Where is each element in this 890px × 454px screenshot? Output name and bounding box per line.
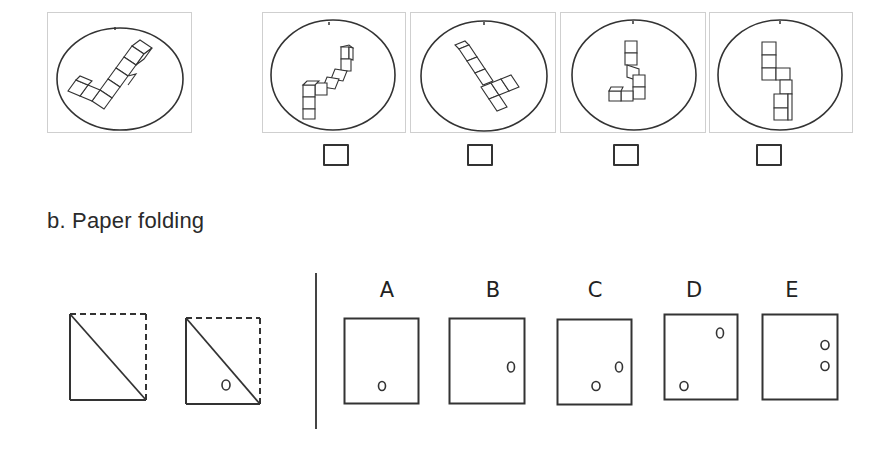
cube-figure-option-3 [561, 13, 707, 134]
option-e-square[interactable] [761, 313, 841, 403]
cube-figure-option-1 [263, 13, 407, 134]
cube-figure-reference [48, 13, 193, 134]
cube-figure-option-4 [710, 13, 854, 134]
cube-figure-option-2 [411, 13, 557, 134]
option-3-checkbox[interactable] [613, 144, 639, 166]
section-title-paper-folding: b. Paper folding [47, 208, 204, 234]
reference-figure-panel [47, 12, 192, 133]
option-2-checkbox[interactable] [467, 144, 493, 166]
option-label-e: E [777, 278, 807, 302]
punched-hole [222, 380, 230, 390]
option-label-c: C [580, 278, 610, 302]
option-label-d: D [679, 278, 709, 302]
section-divider [315, 273, 317, 429]
option-figure-4-panel [709, 12, 853, 133]
option-b-square[interactable] [448, 317, 528, 407]
option-4-checkbox[interactable] [756, 144, 782, 166]
option-d-square[interactable] [663, 313, 741, 403]
option-figure-2-panel [410, 12, 556, 133]
option-figure-1-panel [262, 12, 406, 133]
option-figure-3-panel [560, 12, 706, 133]
option-c-square[interactable] [556, 318, 634, 408]
fold-step-1 [68, 312, 150, 404]
option-label-b: B [478, 278, 508, 302]
option-label-a: A [372, 278, 402, 302]
fold-step-2 [184, 316, 264, 408]
option-a-square[interactable] [343, 317, 421, 407]
option-1-checkbox[interactable] [323, 144, 349, 166]
